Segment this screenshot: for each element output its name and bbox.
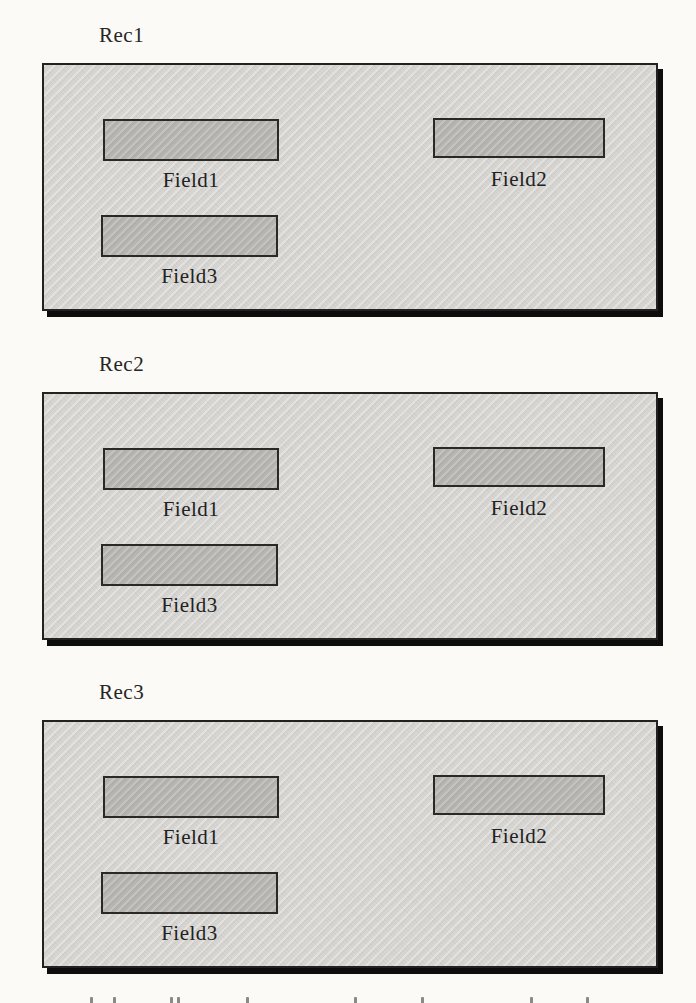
record-box: Field1 Field2 Field3 [42,392,658,640]
field-label: Field2 [433,167,605,192]
record-layout-diagram: Rec1 Field1 Field2 Field3 Rec2 Field1 Fi… [0,0,696,1003]
field-label: Field3 [101,921,278,946]
field-box-field2 [433,447,605,487]
field-box-field3 [101,215,278,257]
field-box-field1 [103,448,279,490]
record-label: Rec3 [99,680,144,705]
record-label: Rec1 [99,23,144,48]
field-box-field1 [103,776,279,818]
field-box-field1 [103,119,279,161]
field-box-field3 [101,544,278,586]
record-box: Field1 Field2 Field3 [42,63,658,311]
record-label: Rec2 [99,352,144,377]
field-label: Field1 [103,497,279,522]
field-label: Field2 [433,496,605,521]
field-box-field2 [433,118,605,158]
field-label: Field3 [101,593,278,618]
field-label: Field1 [103,168,279,193]
field-box-field2 [433,775,605,815]
clipped-caption-remnant [0,988,696,1003]
record-box: Field1 Field2 Field3 [42,720,658,968]
field-label: Field2 [433,824,605,849]
field-label: Field1 [103,825,279,850]
field-box-field3 [101,872,278,914]
field-label: Field3 [101,264,278,289]
